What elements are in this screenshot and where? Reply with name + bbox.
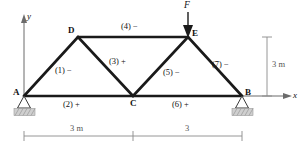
- member-label-2: (2) +: [63, 100, 80, 109]
- x-axis-label: x: [293, 91, 297, 100]
- node-label-D: D: [68, 26, 75, 35]
- support-B-triangle: [236, 96, 249, 108]
- force-label-F: F: [184, 1, 190, 11]
- member-label-6: (6) +: [172, 100, 189, 109]
- dimension-label-height: 3 m: [272, 60, 285, 69]
- support-A-triangle: [18, 96, 31, 108]
- node-label-B: B: [245, 88, 251, 97]
- x-axis-arrowhead: [283, 93, 292, 99]
- node-label-E: E: [192, 29, 198, 38]
- member-label-7: (7) −: [212, 60, 229, 69]
- y-axis-label: y: [27, 12, 31, 21]
- member-3-DC: [78, 37, 133, 96]
- member-label-5: (5) −: [163, 68, 180, 77]
- truss-drawing-canvas: [0, 0, 303, 149]
- member-label-3: (3) +: [109, 57, 126, 66]
- support-A: [14, 96, 35, 116]
- dimension-label-right-span: 3: [185, 124, 189, 133]
- dimension-label-left-span: 3 m: [70, 124, 83, 133]
- horizontal-dimension-line: [24, 131, 242, 141]
- member-label-4: (4) −: [121, 22, 138, 31]
- vertical-dimension-line: [262, 37, 272, 96]
- node-label-C: C: [130, 99, 137, 108]
- support-B: [232, 96, 253, 116]
- node-label-A: A: [13, 88, 20, 97]
- member-label-1: (1) −: [55, 66, 72, 75]
- truss-diagram: y x F A B C D E (1) − (2) + (3) + (4) − …: [0, 0, 303, 149]
